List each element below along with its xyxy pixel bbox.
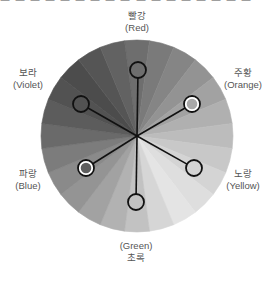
label-red-ko: 빨강: [107, 10, 167, 22]
label-violet-en: (Violet): [0, 79, 58, 91]
label-green-en: (Green): [106, 240, 166, 252]
spoke-green: [136, 136, 137, 194]
label-orange: 주황 (Orange): [213, 67, 273, 91]
label-green: (Green) 초록: [106, 240, 166, 264]
label-violet-ko: 보라: [0, 67, 58, 79]
label-red-en: (Red): [107, 22, 167, 34]
label-blue-en: (Blue): [0, 180, 58, 192]
label-orange-en: (Orange): [213, 79, 273, 91]
label-yellow-en: (Yellow): [213, 180, 273, 192]
marker-blue-icon: [78, 160, 94, 176]
label-green-ko: 초록: [106, 252, 166, 264]
label-yellow: 노랑 (Yellow): [213, 168, 273, 192]
label-red: 빨강 (Red): [107, 10, 167, 34]
label-blue-ko: 파랑: [0, 168, 58, 180]
label-yellow-ko: 노랑: [213, 168, 273, 180]
spoke-red: [137, 78, 138, 136]
label-orange-ko: 주황: [213, 67, 273, 79]
marker-orange-icon: [184, 96, 200, 112]
label-blue: 파랑 (Blue): [0, 168, 58, 192]
label-violet: 보라 (Violet): [0, 67, 58, 91]
